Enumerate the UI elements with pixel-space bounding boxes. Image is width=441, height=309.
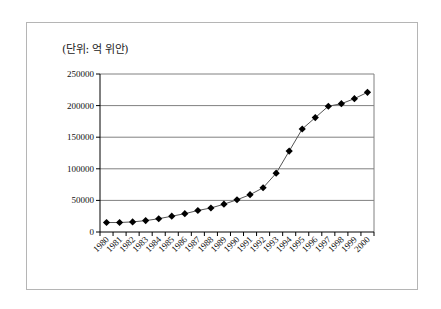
- data-point-marker: [338, 100, 345, 107]
- data-point-marker: [155, 215, 162, 222]
- y-tick-label: 100000: [67, 164, 95, 174]
- y-tick-label: 200000: [67, 101, 95, 111]
- data-point-marker: [129, 218, 136, 225]
- data-point-marker: [246, 191, 253, 198]
- data-point-marker: [207, 204, 214, 211]
- y-tick-label: 150000: [67, 132, 95, 142]
- y-tick-label: 250000: [67, 69, 95, 79]
- axes: [96, 74, 374, 236]
- y-axis-labels: 050000100000150000200000250000: [67, 69, 95, 237]
- data-point-marker: [233, 196, 240, 203]
- data-point-marker: [142, 217, 149, 224]
- data-point-marker: [181, 210, 188, 217]
- data-point-marker: [194, 207, 201, 214]
- data-point-marker: [116, 219, 123, 226]
- line-chart: 050000100000150000200000250000 198019811…: [0, 0, 441, 309]
- data-point-marker: [220, 201, 227, 208]
- x-tick-label: 2000: [352, 234, 372, 254]
- data-point-marker: [351, 95, 358, 102]
- x-axis-labels: 1980198119821983198419851986198719881989…: [91, 234, 372, 254]
- y-tick-label: 50000: [72, 195, 95, 205]
- gridlines: [100, 74, 374, 232]
- data-series: [103, 89, 371, 226]
- data-point-marker: [168, 213, 175, 220]
- y-tick-label: 0: [90, 227, 95, 237]
- data-point-marker: [103, 219, 110, 226]
- data-point-marker: [364, 89, 371, 96]
- data-point-marker: [286, 148, 293, 155]
